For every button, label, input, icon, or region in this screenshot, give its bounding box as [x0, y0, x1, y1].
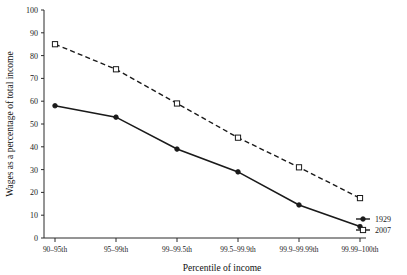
y-axis-tick-label: 20 — [30, 188, 38, 197]
legend-marker-2007 — [360, 227, 365, 232]
y-axis: 0102030405060708090100 — [26, 6, 44, 243]
x-axis-tick-label: 99.9–99.99th — [279, 245, 318, 254]
y-axis-tick-label: 60 — [30, 97, 38, 106]
data-point-2007 — [174, 101, 179, 106]
x-axis-tick-label: 99.5–99.9th — [220, 245, 256, 254]
y-axis-tick-label: 70 — [30, 74, 38, 83]
y-axis-tick-label: 100 — [26, 6, 38, 15]
data-point-2007 — [52, 42, 57, 47]
y-axis-tick-label: 10 — [30, 211, 38, 220]
data-point-2007 — [113, 67, 118, 72]
data-point-1929 — [297, 203, 302, 208]
x-axis-tick-label: 90–95th — [43, 245, 68, 254]
x-axis-title: Percentile of income — [183, 263, 262, 273]
y-axis-tick-label: 50 — [30, 120, 38, 129]
x-axis-tick-label: 95–99th — [104, 245, 129, 254]
data-point-2007 — [235, 135, 240, 140]
legend-marker-1929 — [361, 217, 366, 222]
y-axis-tick-label: 80 — [30, 52, 38, 61]
legend-label-1929: 1929 — [375, 215, 391, 224]
y-axis-tick-label: 0 — [34, 234, 38, 243]
chart-canvas: 0102030405060708090100 90–95th95–99th99–… — [0, 0, 407, 275]
chart-figure: 0102030405060708090100 90–95th95–99th99–… — [0, 0, 407, 275]
y-axis-tick-label: 90 — [30, 29, 38, 38]
data-point-2007 — [357, 196, 362, 201]
data-point-1929 — [53, 103, 58, 108]
y-axis-tick-label: 40 — [30, 143, 38, 152]
data-point-1929 — [236, 170, 241, 175]
data-point-1929 — [175, 147, 180, 152]
y-axis-tick-label: 30 — [30, 166, 38, 175]
plot-series — [52, 42, 362, 229]
series-line-1929 — [55, 106, 360, 227]
data-point-1929 — [114, 115, 119, 120]
y-axis-title: Wages as a percentage of total income — [5, 51, 15, 196]
data-point-2007 — [296, 165, 301, 170]
series-line-2007 — [55, 44, 360, 198]
legend-label-2007: 2007 — [375, 226, 391, 235]
x-axis-tick-label: 99–99.5th — [162, 245, 192, 254]
x-axis: 90–95th95–99th99–99.5th99.5–99.9th99.9–9… — [43, 238, 379, 254]
x-axis-tick-label: 99.99–100th — [341, 245, 378, 254]
